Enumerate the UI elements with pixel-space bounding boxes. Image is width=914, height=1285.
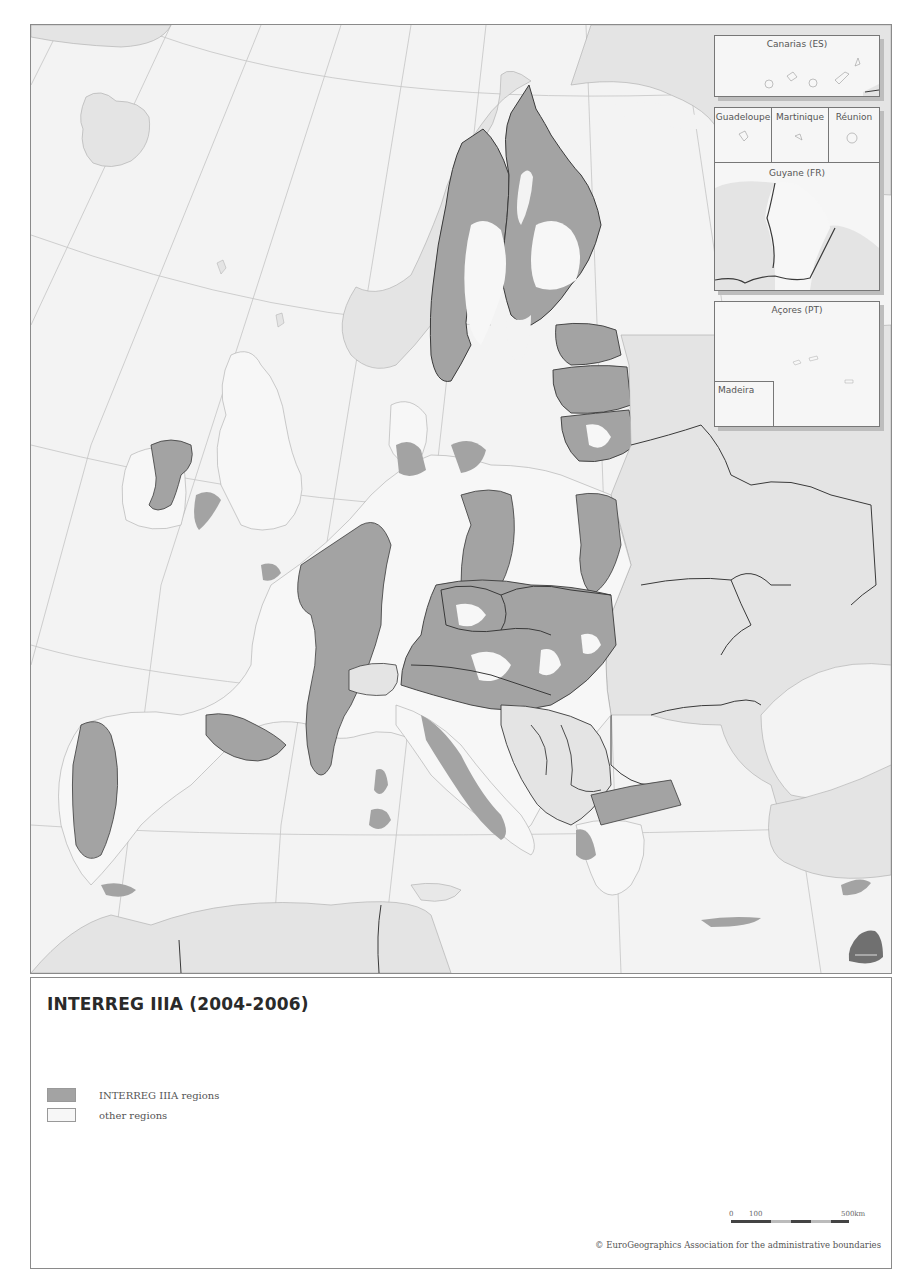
cyprus xyxy=(841,879,871,895)
latvia-interreg xyxy=(553,366,631,414)
legend-panel: INTERREG IIIA (2004-2006) INTERREG IIIA … xyxy=(30,977,892,1269)
map-frame[interactable]: Canarias (ES) Guadeloupe Martinique Réun… xyxy=(30,24,892,974)
legend-item-other: other regions xyxy=(47,1108,167,1122)
sicily xyxy=(411,883,461,901)
corsica-interreg xyxy=(374,769,388,794)
switzerland-land xyxy=(349,663,398,695)
copyright-notice: © EuroGeographics Association for the ad… xyxy=(595,1240,881,1250)
inset-madeira: Madeira xyxy=(715,381,774,426)
estonia-interreg xyxy=(556,323,621,365)
guyane-map xyxy=(715,108,879,290)
algarve-interreg xyxy=(101,883,136,896)
legend-swatch-interreg xyxy=(47,1088,76,1102)
inset-canarias: Canarias (ES) xyxy=(714,35,880,97)
sweden-other xyxy=(464,221,506,345)
north-africa-land xyxy=(31,902,451,973)
wales-interreg xyxy=(194,492,221,530)
crete xyxy=(701,917,761,927)
legend-item-interreg: INTERREG IIIA regions xyxy=(47,1088,219,1102)
great-britain-other xyxy=(217,352,302,530)
scale-tick-100: 100 xyxy=(749,1210,762,1218)
canarias-islands xyxy=(715,36,879,96)
iceland-land xyxy=(81,93,150,167)
legend-label-interreg: INTERREG IIIA regions xyxy=(99,1090,219,1101)
legend-label-other: other regions xyxy=(99,1110,167,1121)
page-top-margin xyxy=(0,0,914,22)
inset-acores: Açores (PT) Madeira xyxy=(714,301,880,427)
regiogis-logo-icon xyxy=(845,927,885,965)
sardinia-interreg xyxy=(369,809,391,829)
map-title: INTERREG IIIA (2004-2006) xyxy=(47,994,309,1014)
scale-bar: 0 100 500km xyxy=(731,1210,881,1230)
inset-label-madeira: Madeira xyxy=(718,385,773,395)
inset-dom: Guadeloupe Martinique Réunion Guyane (FR… xyxy=(714,107,880,291)
legend-swatch-other xyxy=(47,1108,76,1122)
scale-segment xyxy=(771,1220,791,1223)
scale-segment xyxy=(811,1220,831,1223)
kent-interreg xyxy=(261,564,281,581)
scale-tick-500: 500km xyxy=(841,1210,865,1218)
scale-tick-0: 0 xyxy=(729,1210,733,1218)
